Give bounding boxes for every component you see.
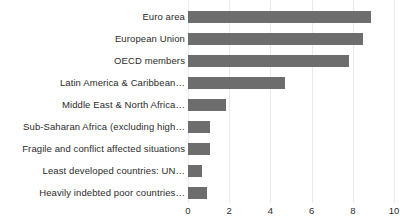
bar-oecd-members [188, 55, 349, 67]
bar-sub-saharan-africa [188, 121, 210, 133]
table-row: Least developed countries: UN… [0, 160, 400, 182]
category-label-european-union: European Union [115, 28, 185, 50]
category-label-least-developed-countries: Least developed countries: UN… [43, 160, 185, 182]
table-row: Fragile and conflict affected situations [0, 138, 400, 160]
category-label-euro-area: Euro area [142, 6, 185, 28]
table-row: European Union [0, 28, 400, 50]
bar-european-union [188, 33, 363, 45]
category-label-middle-east-north-africa: Middle East & North Africa… [62, 94, 185, 116]
bar-rows: Euro area European Union OECD members La… [0, 0, 400, 203]
table-row: Sub-Saharan Africa (excluding high… [0, 116, 400, 138]
x-tick-label-2: 2 [227, 205, 232, 216]
category-label-oecd-members: OECD members [114, 50, 185, 72]
table-row: Middle East & North Africa… [0, 94, 400, 116]
table-row: Heavily indebted poor countries… [0, 182, 400, 204]
x-tick-label-8: 8 [350, 205, 355, 216]
x-tick-label-10: 10 [389, 205, 400, 216]
table-row: Latin America & Caribbean… [0, 72, 400, 94]
bar-chart: Euro area European Union OECD members La… [0, 0, 400, 222]
x-tick-label-4: 4 [268, 205, 273, 216]
category-label-heavily-indebted-poor-countries: Heavily indebted poor countries… [39, 182, 185, 204]
x-tick-label-6: 6 [309, 205, 314, 216]
bar-middle-east-north-africa [188, 99, 226, 111]
bar-fragile-conflict-affected [188, 143, 210, 155]
category-label-latin-america-caribbean: Latin America & Caribbean… [60, 72, 185, 94]
x-tick-label-0: 0 [185, 205, 190, 216]
table-row: Euro area [0, 6, 400, 28]
table-row: OECD members [0, 50, 400, 72]
bar-least-developed-countries [188, 165, 202, 177]
x-axis: 0 2 4 6 8 10 [0, 203, 400, 222]
category-label-fragile-conflict-affected: Fragile and conflict affected situations [22, 138, 185, 160]
category-label-sub-saharan-africa: Sub-Saharan Africa (excluding high… [23, 116, 185, 138]
bar-euro-area [188, 11, 371, 23]
bar-latin-america-caribbean [188, 77, 285, 89]
bar-heavily-indebted-poor-countries [188, 187, 207, 199]
